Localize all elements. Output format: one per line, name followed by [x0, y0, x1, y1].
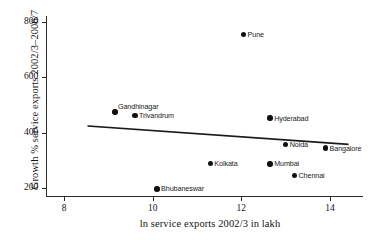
data-point-label: Hyderabad — [274, 114, 308, 123]
data-point-marker — [241, 32, 246, 37]
y-tick-label: 200 — [8, 182, 38, 192]
data-point-marker — [267, 161, 272, 166]
data-point-label: Bhubaneswar — [161, 184, 204, 193]
scatter-chart-figure: Growth % service exports 2002/3–2006/7 l… — [0, 0, 377, 240]
x-tick-label: 10 — [141, 203, 165, 213]
y-axis-tick — [42, 22, 46, 23]
data-point-label: Trivandrum — [139, 111, 174, 120]
x-tick-label: 12 — [229, 203, 253, 213]
data-point-label: Kolkata — [214, 159, 237, 168]
y-axis-tick — [42, 188, 46, 189]
x-axis-line — [46, 196, 363, 197]
data-point-marker — [154, 186, 159, 191]
y-tick-label: 400 — [8, 127, 38, 137]
data-point-marker — [283, 142, 288, 147]
y-axis-title: Growth % service exports 2002/3–2006/7 — [29, 5, 40, 195]
x-axis-title: ln service exports 2002/3 in lakh — [60, 218, 360, 229]
data-point-label: Pune — [248, 30, 264, 39]
data-point-marker — [112, 109, 117, 114]
data-point-marker — [292, 173, 297, 178]
x-axis-tick — [241, 197, 242, 201]
data-point-marker — [323, 145, 328, 150]
x-axis-tick — [64, 197, 65, 201]
data-point-marker — [132, 113, 137, 118]
x-axis-tick — [330, 197, 331, 201]
data-point-label: Noida — [290, 140, 308, 149]
data-point-label: Chennai — [299, 171, 325, 180]
y-axis-tick — [42, 77, 46, 78]
data-point-marker — [208, 161, 213, 166]
x-tick-label: 8 — [52, 203, 76, 213]
y-axis-line — [46, 16, 47, 196]
y-tick-label: 800 — [8, 16, 38, 26]
x-tick-label: 14 — [318, 203, 342, 213]
y-axis-tick — [42, 133, 46, 134]
data-point-label: Bangalore — [330, 144, 362, 153]
data-point-label: Gandhinagar — [118, 102, 158, 111]
y-tick-label: 600 — [8, 71, 38, 81]
data-point-label: Mumbai — [274, 159, 299, 168]
x-axis-tick — [153, 197, 154, 201]
data-point-marker — [267, 115, 272, 120]
